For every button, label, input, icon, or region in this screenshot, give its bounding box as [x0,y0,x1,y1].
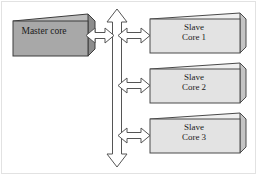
slave-1-arrow-shape [118,28,150,43]
slave-core-2-side-face [240,63,246,103]
slave-core-2-front-face [150,69,240,103]
slave-core-3-front-face [150,119,240,153]
bus-to-slave-3-arrow [118,128,150,143]
bus-to-slave-2-arrow [118,78,150,93]
slave-3-arrow-shape [118,128,150,143]
diagram-canvas [0,0,258,176]
slave-core-1-side-face [240,13,246,53]
architecture-diagram: Master core Slave Core 1 Slave Core 2 Sl… [0,0,258,176]
master-core-node [13,14,95,56]
slave-core-2-node [150,63,246,103]
slave-core-3-node [150,113,246,153]
master-core-front-face [13,21,88,56]
slave-core-1-node [150,13,246,53]
slave-core-1-front-face [150,19,240,53]
bus-to-slave-1-arrow [118,28,150,43]
slave-core-3-side-face [240,113,246,153]
slave-2-arrow-shape [118,78,150,93]
